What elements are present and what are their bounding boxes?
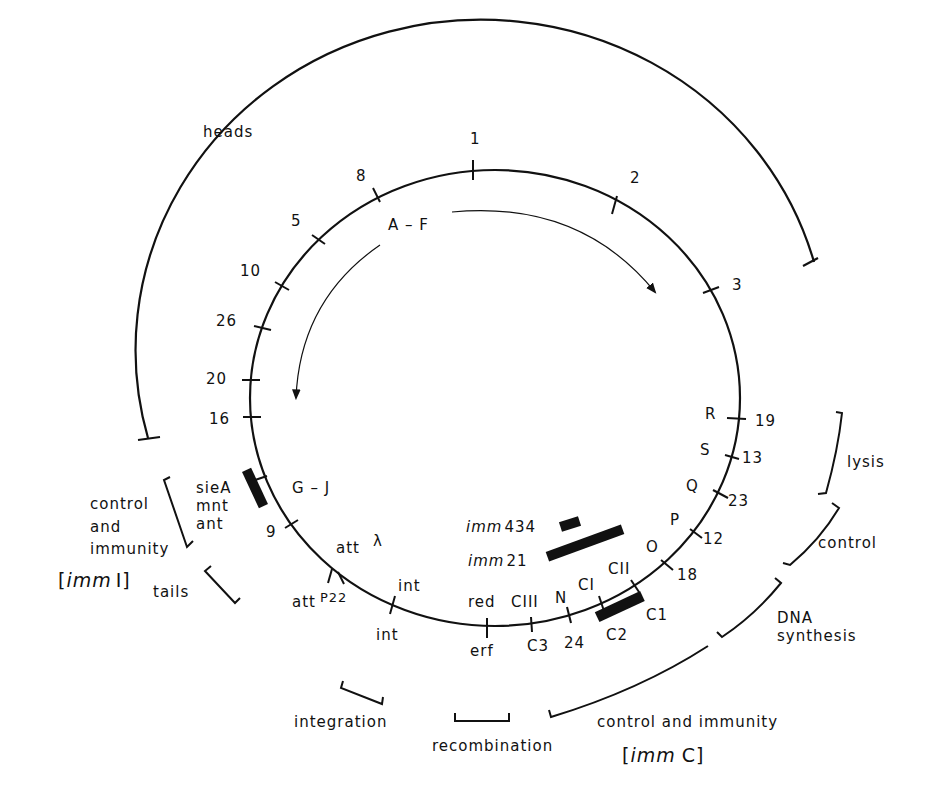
gene-r: R (705, 405, 716, 423)
heads-arc-end-right (803, 258, 818, 266)
marker-24: 24 (564, 634, 585, 652)
region-tails: tails (153, 583, 189, 601)
marker-23: 23 (728, 492, 749, 510)
phage-genetic-map: 1 2 3 8 5 10 26 20 16 A – F R 19 S 13 Q … (0, 0, 939, 809)
region-control-immunity-l3: immunity (90, 540, 169, 558)
region-integration: integration (294, 713, 387, 731)
gene-int-bottom: int (376, 626, 399, 644)
marker-18: 18 (677, 566, 698, 584)
region-control-immunity-l1: control (90, 495, 149, 513)
gene-n: N (555, 589, 567, 607)
region-imm-i: [immI] (58, 569, 131, 591)
gene-erf: erf (470, 642, 494, 660)
lambda-superscript: λ (373, 532, 383, 550)
region-control: control (818, 534, 877, 552)
gene-g-j: G – J (292, 479, 330, 497)
heads-arc-end-left (138, 437, 160, 440)
region-recombination: recombination (432, 737, 553, 755)
gene-c2: C2 (606, 626, 628, 644)
gene-int-top: int (398, 577, 421, 595)
gene-ant: ant (196, 515, 224, 533)
region-dna-synthesis-1: DNA (777, 609, 813, 627)
att-p22: att (292, 593, 316, 611)
marker-26: 26 (216, 312, 237, 330)
arrow-counterclockwise (296, 245, 380, 398)
gene-ciii: CIII (511, 593, 539, 611)
arrow-clockwise (452, 211, 655, 292)
gene-c1: C1 (646, 606, 668, 624)
region-dna-synthesis-2: synthesis (777, 627, 857, 645)
marker-20: 20 (206, 370, 227, 388)
marker-19: 19 (755, 412, 776, 430)
marker-10: 10 (240, 262, 261, 280)
region-lysis: lysis (847, 453, 885, 471)
region-control-immunity-c: control and immunity (597, 713, 778, 731)
att-lambda: att (336, 539, 360, 557)
imm434-label: imm434 (466, 518, 536, 536)
marker-8: 8 (356, 167, 367, 185)
gene-q: Q (686, 477, 699, 495)
gene-cii: CII (608, 560, 630, 578)
p22-superscript: P22 (320, 590, 347, 605)
heads-region-arc (136, 20, 814, 438)
gene-s: S (700, 441, 711, 459)
marker-13: 13 (742, 449, 763, 467)
gene-mnt: mnt (196, 497, 229, 515)
imm21-label: imm21 (468, 552, 528, 570)
marker-1: 1 (470, 130, 481, 148)
marker-9: 9 (266, 523, 277, 541)
arrow-label-a-f: A – F (388, 216, 429, 234)
region-heads: heads (203, 123, 253, 141)
gene-o: O (646, 538, 659, 556)
marker-2: 2 (630, 169, 641, 187)
gene-red: red (468, 593, 496, 611)
region-imm-c: [immC] (622, 744, 704, 766)
marker-16: 16 (209, 410, 230, 428)
marker-5: 5 (291, 212, 302, 230)
gene-siea: sieA (196, 479, 231, 497)
region-control-immunity-l2: and (90, 518, 121, 536)
marker-3: 3 (732, 276, 743, 294)
gene-p: P (670, 511, 680, 529)
gene-ci: CI (578, 576, 595, 594)
gene-c3: C3 (527, 637, 549, 655)
marker-12: 12 (703, 530, 724, 548)
